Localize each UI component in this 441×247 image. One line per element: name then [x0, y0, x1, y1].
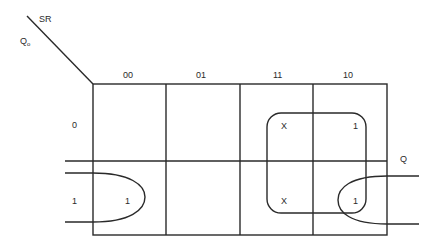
- output-label: Q: [400, 154, 407, 164]
- cell-r0-c2: X: [281, 121, 287, 131]
- cell-r0-c3: 1: [353, 121, 358, 131]
- col-header-00: 00: [123, 70, 133, 80]
- corner-diagonal: [27, 16, 93, 84]
- corner-row-var-label: Qo: [20, 36, 30, 49]
- row-var-text: Q: [20, 36, 27, 46]
- col-header-01: 01: [196, 70, 206, 80]
- cell-r1-c2: X: [281, 196, 287, 206]
- row-var-subscript: o: [27, 41, 30, 47]
- cell-r1-c0: 1: [125, 196, 130, 206]
- col-header-10: 10: [343, 70, 353, 80]
- row-header-0: 0: [72, 120, 77, 130]
- col-header-11: 11: [273, 70, 282, 80]
- corner-col-var-label: SR: [39, 14, 52, 24]
- kmap-drawing: [0, 0, 441, 247]
- group-loop-right-wrap: [338, 176, 419, 224]
- row-header-1: 1: [72, 196, 77, 206]
- cell-r1-c3: 1: [353, 196, 358, 206]
